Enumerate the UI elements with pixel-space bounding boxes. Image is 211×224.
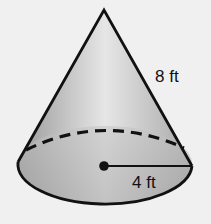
base-center-point [99, 161, 109, 171]
radius-label: 4 ft [132, 174, 156, 191]
cone-graphic [0, 0, 211, 224]
slant-height-label: 8 ft [155, 68, 179, 85]
cone-diagram: 8 ft 4 ft [0, 0, 211, 224]
